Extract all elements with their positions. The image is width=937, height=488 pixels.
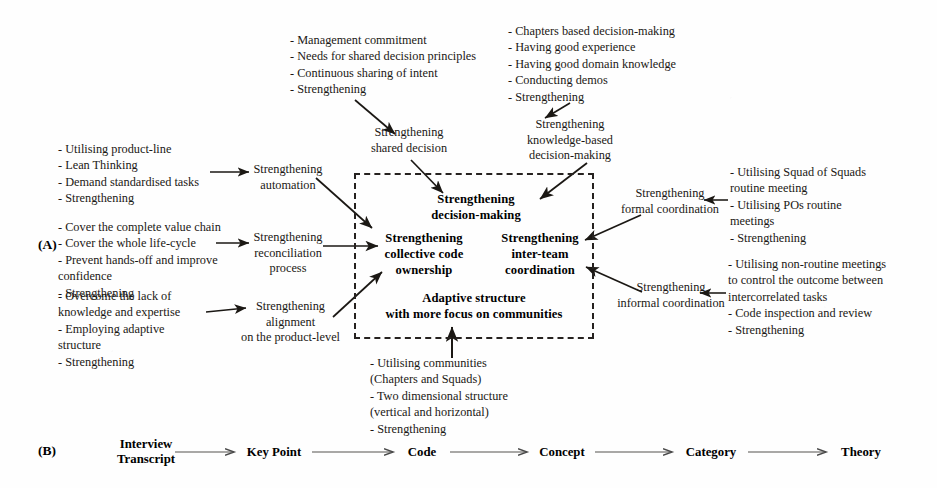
left-input-product-line: - Utilising product-line - Lean Thinking… — [58, 141, 213, 207]
bottom-input-communities: - Utilising communities (Chapters and Sq… — [370, 355, 545, 437]
chain-interview-transcript: Interview Transcript — [102, 437, 190, 466]
top-input-shared-decision: - Management commitment - Needs for shar… — [290, 32, 505, 98]
core-adaptive-structure: Adaptive structure with more focus on co… — [358, 290, 590, 322]
left-input-knowledge-gap: - Overcome the lack of knowledge and exp… — [58, 288, 208, 370]
core-strengthening-inter-team-coordination: Strengthening inter-team coordination — [485, 230, 595, 279]
node-strengthening-shared-decision: Strengthening shared decision — [355, 125, 463, 156]
core-strengthening-decision-making: Strengthening decision-making — [406, 191, 546, 223]
node-strengthening-knowledge-based-decision-making: Strengthening knowledge-based decision-m… — [500, 117, 640, 164]
node-strengthening-informal-coordination: Strengthening informal coordination — [607, 280, 735, 311]
right-input-informal: - Utilising non-routine meetings to cont… — [728, 256, 933, 338]
node-strengthening-reconciliation-process: Strengthening reconciliation process — [248, 230, 328, 277]
chain-key-point: Key Point — [238, 445, 310, 460]
chain-category: Category — [672, 445, 750, 460]
core-strengthening-collective-code-ownership: Strengthening collective code ownership — [369, 230, 479, 279]
panel-a-label: (A) — [38, 237, 57, 253]
chain-code: Code — [393, 445, 451, 460]
right-input-formal: - Utilising Squad of Squads routine meet… — [730, 164, 915, 246]
node-strengthening-alignment: Strengthening alignment on the product-l… — [238, 299, 343, 346]
top-input-knowledge-based: - Chapters based decision-making - Havin… — [508, 23, 743, 105]
chain-concept: Concept — [528, 445, 596, 460]
node-strengthening-formal-coordination: Strengthening formal coordination — [609, 186, 731, 217]
figure-canvas: (A) (B) - Utilising product-line - Lean … — [0, 0, 937, 488]
chain-theory: Theory — [828, 445, 894, 460]
node-strengthening-automation: Strengthening automation — [248, 162, 328, 193]
panel-b-label: (B) — [38, 443, 56, 459]
